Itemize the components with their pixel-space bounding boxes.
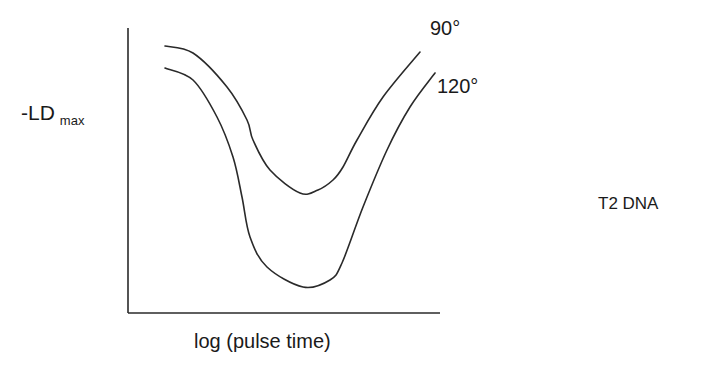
y-axis-label-main: -LD xyxy=(21,101,55,124)
curve-90-degrees xyxy=(165,46,420,194)
chart-plot-area xyxy=(0,0,715,373)
y-axis-label: -LDmax xyxy=(21,101,84,128)
sample-annotation-t2-dna: T2 DNA xyxy=(598,194,658,214)
y-axis-label-subscript: max xyxy=(60,113,85,128)
curve-120-degrees xyxy=(165,68,435,288)
series-label-120-degrees: 120° xyxy=(437,74,478,98)
x-axis-label: log (pulse time) xyxy=(194,329,331,353)
series-label-90-degrees: 90° xyxy=(430,16,460,40)
